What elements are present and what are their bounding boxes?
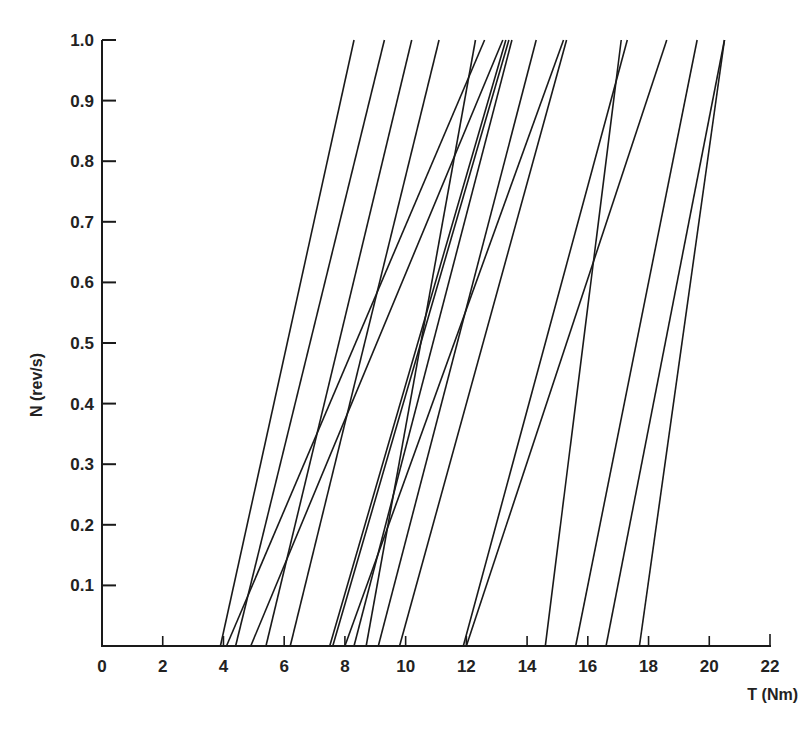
x-tick-label: 12 xyxy=(457,657,476,676)
data-line xyxy=(639,40,724,646)
x-tick-label: 20 xyxy=(700,657,719,676)
x-axis-label: T (Nm) xyxy=(747,686,798,703)
y-tick-label: 0.6 xyxy=(70,273,94,292)
x-tick-label: 4 xyxy=(219,657,229,676)
x-axis-ticks: 0246810121416182022 xyxy=(97,634,779,676)
data-line xyxy=(545,40,621,646)
torque-speed-chart: 0.10.20.30.40.50.60.70.80.91.0 024681012… xyxy=(0,0,805,742)
y-tick-label: 1.0 xyxy=(70,31,94,50)
x-tick-label: 6 xyxy=(279,657,288,676)
data-lines xyxy=(220,40,724,646)
x-tick-label: 0 xyxy=(97,657,106,676)
y-tick-label: 0.3 xyxy=(70,455,94,474)
y-tick-label: 0.2 xyxy=(70,516,94,535)
y-tick-label: 0.4 xyxy=(70,395,94,414)
y-tick-label: 0.5 xyxy=(70,334,94,353)
data-line xyxy=(236,40,385,646)
x-tick-label: 2 xyxy=(158,657,167,676)
x-tick-label: 10 xyxy=(396,657,415,676)
y-tick-label: 0.1 xyxy=(70,576,94,595)
data-line xyxy=(378,40,536,646)
data-line xyxy=(290,40,439,646)
y-axis-ticks: 0.10.20.30.40.50.60.70.80.91.0 xyxy=(70,31,116,595)
x-tick-label: 18 xyxy=(639,657,658,676)
y-tick-label: 0.9 xyxy=(70,92,94,111)
y-tick-label: 0.8 xyxy=(70,152,94,171)
data-line xyxy=(366,40,475,646)
y-tick-label: 0.7 xyxy=(70,213,94,232)
x-tick-label: 16 xyxy=(578,657,597,676)
axes xyxy=(101,40,771,646)
y-axis-label: N (rev/s) xyxy=(28,353,45,417)
x-tick-label: 8 xyxy=(340,657,349,676)
data-line xyxy=(606,40,724,646)
x-tick-label: 14 xyxy=(518,657,537,676)
x-tick-label: 22 xyxy=(761,657,780,676)
